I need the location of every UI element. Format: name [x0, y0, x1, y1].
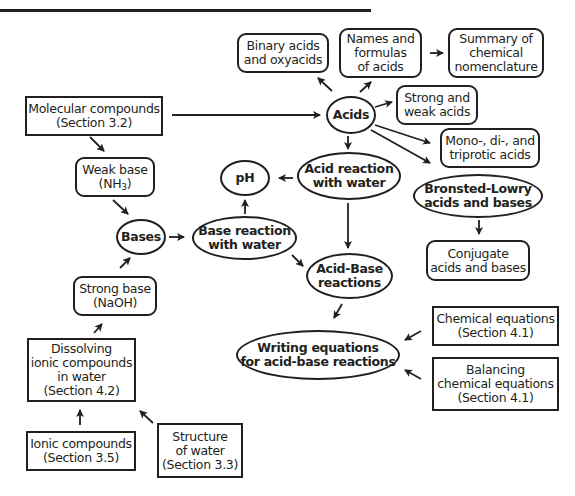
node-label: Acid reaction with water [304, 162, 393, 190]
node-dissolving-ionic-compounds: Dissolving ionic compounds in water (Sec… [27, 338, 136, 402]
node-strong-and-weak-acids: Strong and weak acids [396, 85, 478, 125]
node-label: Weak base (NH3) [82, 163, 147, 191]
node-label: Conjugate acids and bases [430, 247, 526, 275]
node-bases: Bases [116, 219, 166, 255]
node-acid-reaction-with-water: Acid reaction with water [297, 152, 401, 200]
weak-base-label: Weak base [82, 162, 147, 177]
node-ph: pH [220, 160, 270, 196]
node-label: Summary of chemical nomenclature [454, 32, 537, 74]
node-label: Balancing chemical equations (Section 4.… [437, 363, 553, 405]
node-conjugate-acids-and-bases: Conjugate acids and bases [426, 240, 530, 281]
node-label: Chemical equations (Section 4.1) [436, 312, 554, 340]
node-label: Writing equations for acid-base reaction… [240, 341, 395, 369]
node-balancing-chemical-equations: Balancing chemical equations (Section 4.… [432, 357, 559, 411]
node-writing-equations: Writing equations for acid-base reaction… [236, 330, 400, 380]
weak-base-formula: (NH [99, 176, 122, 191]
node-label: Strong and weak acids [404, 91, 470, 119]
node-names-and-formulas-of-acids: Names and formulas of acids [339, 28, 422, 78]
node-structure-of-water: Structure of water (Section 3.3) [157, 423, 243, 478]
node-label: Acids [333, 108, 369, 122]
node-label: Strong base (NaOH) [79, 282, 151, 310]
node-label: Mono-, di-, and triprotic acids [445, 134, 535, 162]
node-summary-of-chemical-nomenclature: Summary of chemical nomenclature [448, 28, 544, 78]
node-label: Names and formulas of acids [346, 32, 414, 74]
node-acid-base-reactions: Acid-Base reactions [306, 253, 393, 299]
node-label: Dissolving ionic compounds in water (Sec… [31, 342, 132, 398]
node-label: Bronsted-Lowry acids and bases [424, 182, 532, 210]
node-ionic-compounds: Ionic compounds (Section 3.5) [26, 431, 136, 471]
node-base-reaction-with-water: Base reaction with water [192, 216, 297, 260]
node-label: Binary acids and oxyacids [244, 39, 322, 67]
node-weak-base: Weak base (NH3) [75, 157, 155, 197]
weak-base-formula-end: ) [127, 176, 132, 191]
node-label: pH [236, 171, 255, 185]
node-label: Molecular compounds (Section 3.2) [28, 102, 160, 130]
node-binary-acids-and-oxyacids: Binary acids and oxyacids [237, 33, 329, 73]
node-label: Acid-Base reactions [316, 262, 383, 290]
node-acids: Acids [326, 96, 376, 134]
node-label: Ionic compounds (Section 3.5) [30, 437, 132, 465]
node-label: Base reaction with water [198, 224, 291, 252]
node-chemical-equations: Chemical equations (Section 4.1) [432, 306, 559, 346]
node-mono-di-triprotic-acids: Mono-, di-, and triprotic acids [440, 128, 540, 168]
node-label: Bases [121, 230, 161, 244]
node-bronsted-lowry-acids-and-bases: Bronsted-Lowry acids and bases [413, 174, 543, 218]
node-molecular-compounds: Molecular compounds (Section 3.2) [25, 96, 163, 136]
node-strong-base: Strong base (NaOH) [73, 276, 157, 316]
node-label: Structure of water (Section 3.3) [162, 430, 238, 472]
